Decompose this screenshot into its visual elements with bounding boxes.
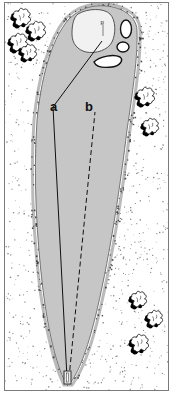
rough-dot — [102, 380, 103, 381]
rough-dot — [101, 356, 102, 357]
rough-dot — [30, 317, 31, 318]
rough-dot — [17, 119, 18, 120]
rough-dot — [18, 124, 19, 125]
rough-dot — [8, 358, 9, 359]
rough-dot — [130, 389, 131, 390]
rough-dot — [132, 381, 133, 382]
rough-dot — [20, 110, 21, 111]
rough-dot — [23, 122, 24, 123]
rough-dot — [135, 312, 136, 313]
rough-dot — [89, 359, 90, 360]
rough-dot — [32, 79, 33, 80]
rough-dot — [156, 242, 157, 243]
rough-dot — [161, 72, 162, 73]
rough-dot — [130, 248, 131, 249]
rough-dot — [136, 192, 137, 193]
rough-dot — [118, 248, 119, 249]
rough-dot — [10, 254, 11, 255]
rough-dot — [136, 169, 137, 170]
rough-dot — [31, 379, 32, 380]
rough-dot — [46, 41, 47, 42]
rough-dot — [28, 324, 29, 325]
rough-dot — [8, 208, 9, 209]
rough-dot — [145, 332, 146, 333]
rough-dot — [37, 355, 38, 356]
rough-dot — [165, 227, 166, 228]
rough-dot — [148, 36, 149, 37]
rough-dot — [162, 201, 163, 202]
rough-dot — [46, 342, 47, 343]
rough-dot — [34, 290, 35, 291]
rough-dot — [12, 182, 13, 183]
rough-dot — [14, 163, 15, 164]
rough-dot — [135, 203, 136, 204]
rough-dot — [137, 258, 138, 259]
rough-dot — [147, 259, 148, 260]
rough-dot — [162, 330, 163, 331]
rough-dot — [124, 223, 125, 224]
rough-dot — [24, 166, 25, 167]
golf-hole-diagram: p a b — [0, 0, 173, 393]
rough-dot — [110, 370, 111, 371]
tree-crown — [143, 118, 159, 134]
rough-dot — [33, 283, 34, 284]
rough-dot — [15, 200, 16, 201]
rough-dot — [12, 299, 13, 300]
rough-dot — [31, 124, 32, 125]
rough-dot — [140, 286, 141, 287]
rough-dot — [151, 5, 152, 6]
rough-dot — [143, 232, 144, 233]
rough-dot — [124, 367, 125, 368]
rough-dot — [10, 62, 11, 63]
rough-dot — [36, 63, 37, 64]
rough-dot — [145, 179, 146, 180]
rough-dot — [14, 229, 15, 230]
rough-dot — [131, 224, 132, 225]
rough-dot — [13, 176, 14, 177]
rough-dot — [142, 384, 143, 385]
rough-dot — [86, 387, 87, 388]
rough-dot — [154, 146, 155, 147]
rough-dot — [10, 164, 11, 165]
rough-dot — [136, 365, 137, 366]
rough-dot — [162, 66, 163, 67]
rough-dot — [128, 229, 129, 230]
rough-dot — [154, 389, 155, 390]
rough-dot — [153, 49, 154, 50]
rough-dot — [108, 355, 109, 356]
rough-dot — [106, 361, 107, 362]
rough-dot — [133, 377, 134, 378]
rough-dot — [39, 13, 40, 14]
rough-dot — [146, 225, 147, 226]
rough-dot — [57, 380, 58, 381]
rough-dot — [145, 53, 146, 54]
rough-dot — [136, 173, 137, 174]
rough-dot — [16, 380, 17, 381]
rough-dot — [50, 379, 51, 380]
rough-dot — [146, 86, 147, 87]
rough-dot — [115, 256, 116, 257]
rough-dot — [165, 112, 166, 113]
rough-dot — [154, 373, 155, 374]
rough-dot — [90, 367, 91, 368]
rough-dot — [112, 358, 113, 359]
rough-dot — [9, 366, 10, 367]
rough-dot — [163, 211, 164, 212]
rough-dot — [158, 309, 159, 310]
rough-dot — [156, 258, 157, 259]
rough-dot — [161, 26, 162, 27]
rough-dot — [28, 347, 29, 348]
tree-crown — [21, 44, 37, 60]
rough-dot — [158, 108, 159, 109]
rough-dot — [141, 170, 142, 171]
rough-dot — [24, 265, 25, 266]
rough-dot — [124, 235, 125, 236]
rough-dot — [44, 327, 45, 328]
rough-dot — [140, 241, 141, 242]
rough-dot — [26, 378, 27, 379]
rough-dot — [159, 232, 160, 233]
rough-dot — [85, 364, 86, 365]
rough-dot — [158, 8, 159, 9]
rough-dot — [142, 175, 143, 176]
rough-dot — [130, 207, 131, 208]
